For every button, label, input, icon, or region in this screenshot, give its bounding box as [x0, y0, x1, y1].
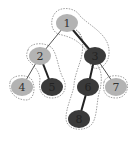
node-7: 7: [105, 78, 127, 96]
node-8: 8: [68, 110, 90, 128]
node-label-1: 1: [64, 17, 71, 30]
node-5: 5: [41, 78, 63, 96]
node-label-4: 4: [19, 81, 26, 94]
node-label-2: 2: [37, 50, 44, 63]
node-label-5: 5: [49, 81, 56, 94]
node-1: 1: [56, 14, 78, 32]
node-label-8: 8: [76, 113, 83, 126]
tree-nodes: 1 2 3 4 5 6 7 8: [11, 14, 127, 128]
node-4: 4: [11, 78, 33, 96]
tree-diagram: 1 2 3 4 5 6 7 8: [0, 0, 137, 143]
node-6: 6: [77, 78, 99, 96]
node-label-3: 3: [92, 50, 99, 63]
node-2: 2: [29, 47, 51, 65]
node-label-7: 7: [113, 81, 120, 94]
node-label-6: 6: [85, 81, 92, 94]
node-3: 3: [84, 47, 106, 65]
